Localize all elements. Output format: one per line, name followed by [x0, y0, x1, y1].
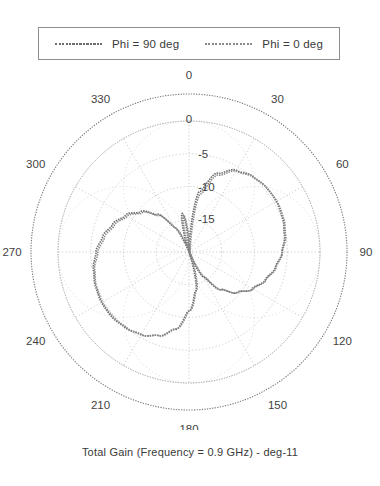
- figure-caption: Total Gain (Frequency = 0.9 GHz) - deg-1…: [0, 446, 380, 458]
- legend-entry-phi-0: Phi = 0 deg: [205, 38, 323, 50]
- angle-label-0: 0: [186, 69, 192, 81]
- legend-entry-phi-90: Phi = 90 deg: [55, 38, 179, 50]
- angle-label-60: 60: [336, 158, 349, 170]
- angle-label-90: 90: [360, 246, 373, 258]
- angle-label-210: 210: [91, 399, 110, 411]
- angle-label-30: 30: [271, 93, 284, 105]
- angle-label-240: 240: [26, 335, 45, 347]
- angle-label-270: 270: [2, 246, 21, 258]
- angle-label-330: 330: [91, 93, 110, 105]
- chart-legend: Phi = 90 deg Phi = 0 deg: [38, 27, 340, 60]
- polar-series-curves: [93, 170, 285, 336]
- angle-label-120: 120: [333, 335, 352, 347]
- radial-label-minus5: -5: [198, 148, 208, 160]
- polar-plot-svg: 0-5-10-15 030609012015018021024027030033…: [0, 62, 380, 430]
- pattern-curve-phi-0: [95, 171, 286, 336]
- angle-label-150: 150: [268, 399, 287, 411]
- angle-label-300: 300: [26, 158, 45, 170]
- angle-label-180: 180: [179, 423, 198, 430]
- legend-swatch-phi-90: [55, 43, 103, 45]
- radial-tick-labels: 0-5-10-15: [186, 113, 215, 225]
- legend-swatch-phi-0: [205, 43, 253, 45]
- radial-label-0: 0: [186, 113, 192, 125]
- polar-radiation-pattern-figure: Phi = 90 deg Phi = 0 deg 0-5-10-15 03060…: [0, 0, 380, 486]
- polar-plot-area: 0-5-10-15 030609012015018021024027030033…: [0, 62, 380, 430]
- radial-label-minus15: -15: [198, 213, 215, 225]
- radial-label-minus10: -10: [198, 181, 215, 193]
- legend-label-phi-0: Phi = 0 deg: [262, 38, 323, 50]
- legend-label-phi-90: Phi = 90 deg: [112, 38, 179, 50]
